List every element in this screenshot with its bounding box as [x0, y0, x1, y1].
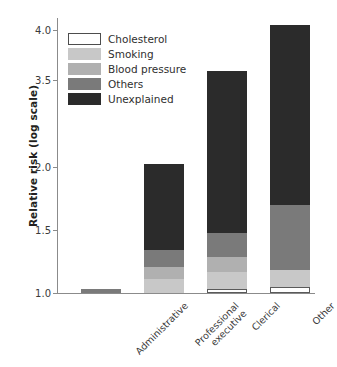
- bar-segment-blood-pressure: [144, 267, 184, 280]
- bar-segment-others: [81, 289, 121, 293]
- x-axis-line: [57, 293, 315, 294]
- x-axis-label-line: Other: [310, 300, 337, 327]
- bar-segment-smoking: [207, 272, 247, 290]
- bar-segment-cholesterol: [270, 287, 310, 293]
- y-tick-label: 1.5: [35, 225, 51, 236]
- bar-segment-smoking: [270, 270, 310, 286]
- legend-swatch-smoking: [68, 48, 101, 60]
- x-axis-label-administrative: Administrative: [133, 300, 190, 357]
- bar-segment-blood-pressure: [207, 257, 247, 272]
- y-tick-label: 2.0: [35, 162, 51, 173]
- legend-item-unexplained: Unexplained: [68, 93, 186, 105]
- legend-swatch-unexplained: [68, 93, 101, 105]
- y-tick-mark: [53, 293, 57, 294]
- legend-label: Others: [108, 78, 143, 90]
- y-tick-mark: [53, 167, 57, 168]
- legend-swatch-others: [68, 78, 101, 90]
- bar-other: [270, 25, 310, 293]
- legend-item-others: Others: [68, 78, 186, 90]
- x-axis-label-line: Clerical: [249, 300, 282, 333]
- bar-clerical: [207, 71, 247, 293]
- x-axis-label-professional-executive: Professionalexecutive: [193, 300, 249, 356]
- x-axis-label-line: Administrative: [133, 300, 190, 357]
- bar-professional-executive: [144, 164, 184, 293]
- chart-legend: CholesterolSmokingBlood pressureOthersUn…: [68, 33, 186, 105]
- y-axis-line: [57, 18, 58, 294]
- y-tick-mark: [53, 30, 57, 31]
- bar-segment-unexplained: [144, 164, 184, 251]
- bar-segment-others: [207, 233, 247, 257]
- bar-segment-others: [144, 250, 184, 266]
- legend-item-cholesterol: Cholesterol: [68, 33, 186, 45]
- y-tick-mark: [53, 80, 57, 81]
- bar-segment-unexplained: [270, 25, 310, 205]
- y-axis-title: Relative risk (log scale): [27, 71, 39, 241]
- y-tick-label: 1.0: [35, 288, 51, 299]
- legend-label: Cholesterol: [108, 33, 167, 45]
- bar-segment-others: [270, 205, 310, 271]
- x-axis-label-other: Other: [310, 300, 337, 327]
- legend-label: Smoking: [108, 48, 154, 60]
- y-tick-mark: [53, 230, 57, 231]
- legend-item-smoking: Smoking: [68, 48, 186, 60]
- bar-segment-unexplained: [207, 71, 247, 233]
- y-tick-label: 4.0: [35, 25, 51, 36]
- legend-label: Unexplained: [108, 93, 174, 105]
- x-axis-label-clerical: Clerical: [249, 300, 282, 333]
- bar-administrative: [81, 289, 121, 293]
- legend-item-blood-pressure: Blood pressure: [68, 63, 186, 75]
- legend-label: Blood pressure: [108, 63, 186, 75]
- bar-segment-smoking: [144, 279, 184, 293]
- legend-swatch-blood-pressure: [68, 63, 101, 75]
- legend-swatch-cholesterol: [68, 33, 101, 45]
- bar-segment-cholesterol: [207, 289, 247, 293]
- y-tick-label: 3.5: [35, 75, 51, 86]
